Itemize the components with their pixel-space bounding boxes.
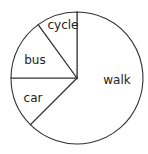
slice-label-car: car xyxy=(24,91,43,105)
slice-label-bus: bus xyxy=(24,53,45,67)
slice-label-cycle: cycle xyxy=(47,18,78,32)
pie-chart: walk car bus cycle xyxy=(0,0,148,154)
slice-label-walk: walk xyxy=(103,73,131,87)
